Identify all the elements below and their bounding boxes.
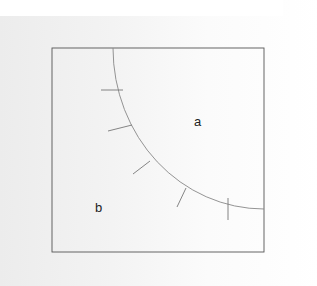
tick-mark	[177, 188, 186, 207]
tick-marks	[101, 90, 228, 220]
diagram-frame	[52, 48, 264, 252]
boundary-curve	[113, 48, 264, 209]
region-diagram: a b	[0, 0, 283, 286]
region-label-a: a	[194, 114, 202, 129]
region-label-b: b	[95, 200, 102, 215]
tick-mark	[108, 125, 132, 131]
tick-mark	[133, 161, 150, 174]
